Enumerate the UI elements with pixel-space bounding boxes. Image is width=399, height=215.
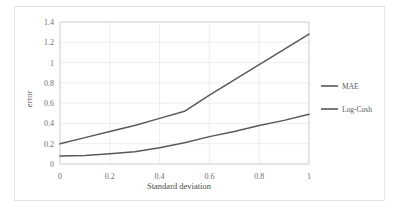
chart-figure: 00.20.40.60.811.21.4 00.20.40.60.81 erro… [14,6,385,201]
x-tick-label: 1 [307,172,311,181]
data-series [60,34,309,156]
x-tick-label: 0.8 [254,172,264,181]
y-axis-title: error [24,91,34,108]
legend-label-mae: MAE [342,82,359,91]
chart-legend: MAELog-Cosh [321,82,372,114]
y-tick-label: 1.4 [44,18,54,27]
x-tick-label: 0.4 [155,172,165,181]
legend-label-log-cosh: Log-Cosh [342,105,372,114]
x-tick-label: 0.2 [105,172,115,181]
y-tick-label: 1 [50,59,54,68]
x-tick-label: 0 [58,172,62,181]
y-axis-tick-labels: 00.20.40.60.811.21.4 [44,18,54,169]
y-tick-label: 0.6 [44,99,54,108]
y-tick-label: 0.8 [44,79,54,88]
line-chart-plot: 00.20.40.60.811.21.4 00.20.40.60.81 erro… [15,7,384,200]
series-line-mae [60,34,309,144]
y-tick-label: 0.2 [44,140,54,149]
y-tick-label: 0 [50,160,54,169]
x-axis-title: Standard deviation [147,181,212,191]
x-tick-label: 0.6 [204,172,214,181]
y-tick-label: 1.2 [44,38,54,47]
x-axis-tick-labels: 00.20.40.60.81 [58,172,311,181]
y-tick-label: 0.4 [44,119,54,128]
